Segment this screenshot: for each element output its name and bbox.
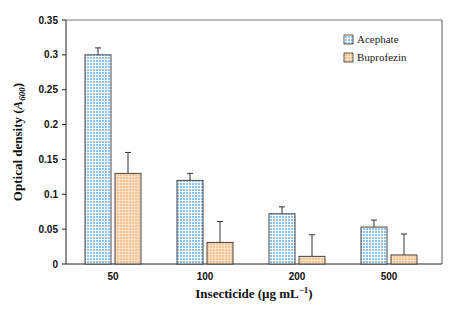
bars-layer [85, 48, 417, 264]
bar-acephate-500 [361, 227, 387, 264]
y-tick-label: 0.05 [39, 224, 59, 235]
bar-buprofezin-500 [391, 255, 417, 264]
bar-buprofezin-200 [299, 256, 325, 264]
y-tick-label: 0.15 [39, 154, 59, 165]
bar-buprofezin-50 [115, 173, 141, 264]
y-tick-label: 0.35 [39, 15, 59, 26]
y-tick-label: 0.3 [44, 49, 58, 60]
y-tick-label: 0.1 [44, 189, 58, 200]
x-axis-title: Insecticide (μg mL−1) [195, 285, 312, 301]
legend-label-acephate: Acephate [357, 33, 399, 45]
bar-chart: 00.050.10.150.20.250.30.35 50100200500 A… [0, 0, 457, 317]
x-tick-label: 50 [107, 271, 119, 282]
x-tick-label: 500 [381, 271, 398, 282]
legend-swatch-buprofezin [344, 53, 353, 62]
bar-acephate-50 [85, 55, 111, 264]
y-axis-title: Optical density (A600) [10, 83, 27, 201]
y-tick-label: 0.2 [44, 119, 58, 130]
legend-swatch-acephate [344, 35, 353, 44]
x-tick-label: 100 [197, 271, 214, 282]
x-axis: 50100200500 [107, 271, 397, 282]
legend-label-buprofezin: Buprofezin [357, 51, 407, 63]
bar-acephate-200 [269, 214, 295, 264]
y-tick-label: 0.25 [39, 84, 59, 95]
x-tick-label: 200 [289, 271, 306, 282]
legend: AcephateBuprofezin [344, 33, 407, 63]
bar-acephate-100 [177, 180, 203, 264]
y-tick-label: 0 [52, 259, 58, 270]
bar-buprofezin-100 [207, 242, 233, 264]
y-axis: 00.050.10.150.20.250.30.35 [39, 15, 66, 270]
